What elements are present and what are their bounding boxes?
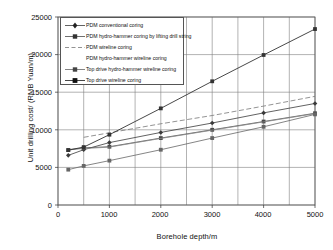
legend-label: Top drive hydro-hammer wireline coring xyxy=(86,64,176,75)
legend-marker-blank-icon xyxy=(64,53,86,64)
y-tick-label: 10000 xyxy=(18,126,52,135)
legend-label: PDM conventional coring xyxy=(86,20,143,31)
legend-label: PDM hydro-hammer coring by lifting drill… xyxy=(86,31,191,42)
y-tick-label: 20000 xyxy=(18,50,52,59)
y-axis-title: Unit drilling cost/ (RMB Yuan/m) xyxy=(26,28,35,188)
y-tick-label: 15000 xyxy=(18,88,52,97)
legend-marker-square-icon xyxy=(64,31,86,42)
x-tick-label: 3000 xyxy=(192,210,232,219)
y-tick-label: 5000 xyxy=(18,163,52,172)
legend-label: Top drive wireline coring xyxy=(86,75,141,86)
chart-figure: 25000 20000 15000 10000 5000 0 0 1000 20… xyxy=(0,0,333,250)
legend-marker-diamond-icon xyxy=(64,20,86,31)
x-tick-label: 5000 xyxy=(295,210,333,219)
legend-label: PDM wireline coring xyxy=(86,42,132,53)
legend-item-top-drive-wireline-coring[interactable]: Top drive wireline coring xyxy=(61,75,183,86)
x-tick-label: 2000 xyxy=(140,210,180,219)
x-axis-title: Borehole depth/m xyxy=(58,232,316,241)
legend-marker-dashed-line-icon xyxy=(64,42,86,53)
y-tick-label: 0 xyxy=(18,201,52,210)
legend-marker-square-icon xyxy=(64,75,86,86)
legend-item-top-drive-hydro-hammer-wireline-coring[interactable]: Top drive hydro-hammer wireline coring xyxy=(61,64,183,75)
legend-item-pdm-hydro-hammer-wireline-coring[interactable]: PDM hydro-hammer wireline coring xyxy=(61,53,183,64)
legend-marker-square-icon xyxy=(64,64,86,75)
x-tick-label: 0 xyxy=(38,210,78,219)
x-tick-label: 1000 xyxy=(89,210,129,219)
chart-legend: PDM conventional coring PDM hydro-hammer… xyxy=(60,17,184,85)
y-tick-label: 25000 xyxy=(18,13,52,22)
legend-label: PDM hydro-hammer wireline coring xyxy=(86,53,167,64)
legend-item-pdm-hydro-hammer-coring-lifting[interactable]: PDM hydro-hammer coring by lifting drill… xyxy=(61,31,183,42)
legend-item-pdm-wireline-coring[interactable]: PDM wireline coring xyxy=(61,42,183,53)
legend-item-pdm-conventional-coring[interactable]: PDM conventional coring xyxy=(61,20,183,31)
x-tick-label: 4000 xyxy=(243,210,283,219)
